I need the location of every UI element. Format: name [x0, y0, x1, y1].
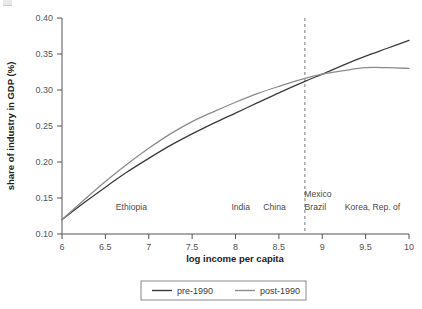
legend-label-post-1990: post-1990 [260, 286, 300, 296]
country-label-india: India [231, 202, 250, 212]
series-line-post-1990 [62, 67, 409, 219]
country-label-brazil: Brazil [305, 202, 327, 212]
country-label-china: China [263, 202, 286, 212]
x-tick-label: 9 [320, 242, 325, 252]
x-tick-label: 8 [233, 242, 238, 252]
x-tick-label: 9.5 [359, 242, 372, 252]
y-tick-label: 0.15 [35, 193, 53, 203]
x-axis-ticks [62, 234, 409, 239]
y-tick-label: 0.40 [35, 13, 53, 23]
y-axis-tick-labels: 0.400.350.300.250.200.150.10 [35, 13, 53, 239]
y-axis-title: share of industry in GDP (%) [5, 62, 16, 191]
y-tick-label: 0.20 [35, 157, 53, 167]
x-tick-label: 10 [404, 242, 414, 252]
y-tick-label: 0.25 [35, 121, 53, 131]
x-tick-label: 7 [146, 242, 151, 252]
country-label-mexico: Mexico [304, 189, 331, 199]
country-label-ethiopia: Ethiopia [116, 202, 147, 212]
y-tick-label: 0.30 [35, 85, 53, 95]
y-tick-label: 0.35 [35, 49, 53, 59]
x-tick-label: 6.5 [99, 242, 112, 252]
series-line-pre-1990 [62, 40, 409, 219]
y-axis-ticks [57, 18, 62, 234]
data-series-group [62, 40, 409, 219]
x-tick-label: 8.5 [273, 242, 286, 252]
legend-label-pre-1990: pre-1990 [177, 286, 213, 296]
legend-items: pre-1990post-1990 [152, 286, 300, 296]
x-tick-label: 7.5 [186, 242, 199, 252]
chart-figure: 0.400.350.300.250.200.150.10 66.577.588.… [0, 0, 422, 309]
x-tick-label: 6 [59, 242, 64, 252]
chart-legend: pre-1990post-1990 [141, 281, 306, 300]
country-label-korea-rep-of: Korea, Rep. of [345, 202, 401, 212]
x-axis-tick-labels: 66.577.588.599.510 [59, 242, 414, 252]
chart-plot-area: 0.400.350.300.250.200.150.10 66.577.588.… [0, 0, 422, 309]
y-tick-label: 0.10 [35, 229, 53, 239]
country-annotations: EthiopiaIndiaChinaMexicoBrazilKorea, Rep… [116, 189, 401, 213]
x-axis-title: log income per capita [186, 253, 284, 264]
